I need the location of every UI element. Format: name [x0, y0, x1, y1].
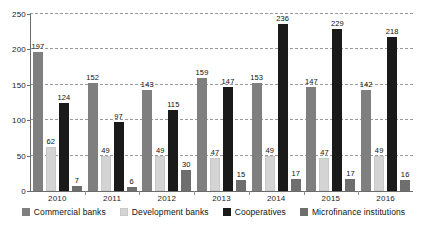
bar-chart: 1976212471524997614349115301594714715153… — [0, 0, 427, 230]
x-axis-group-separator — [194, 191, 195, 195]
x-axis-tick-label: 2012 — [157, 194, 176, 203]
legend-label: Commercial banks — [34, 207, 106, 217]
x-axis-tick-label: 2015 — [322, 194, 341, 203]
legend-label: Development banks — [132, 207, 209, 217]
legend-item[interactable]: Commercial banks — [22, 207, 106, 217]
legend-item[interactable]: Development banks — [120, 207, 209, 217]
x-axis-tick-label: 2014 — [267, 194, 286, 203]
legend-item[interactable]: Microfinance institutions — [300, 207, 405, 217]
x-axis-tick-label: 2013 — [212, 194, 231, 203]
x-axis-group-separator — [358, 191, 359, 195]
legend: Commercial banksDevelopment banksCoopera… — [0, 207, 427, 217]
x-axis-tick-label: 2016 — [376, 194, 395, 203]
legend-label: Cooperatives — [235, 207, 286, 217]
legend-item[interactable]: Cooperatives — [223, 207, 286, 217]
legend-label: Microfinance institutions — [312, 207, 405, 217]
legend-swatch-icon — [22, 208, 30, 216]
legend-swatch-icon — [120, 208, 128, 216]
x-axis-tick-label: 2010 — [48, 194, 67, 203]
x-axis-tick-labels: 2010201120122013201420152016 — [30, 0, 413, 230]
x-axis-group-separator — [304, 191, 305, 195]
x-axis-group-separator — [85, 191, 86, 195]
x-axis-group-separator — [249, 191, 250, 195]
x-axis-tick-label: 2011 — [103, 194, 121, 203]
x-axis-group-separator — [139, 191, 140, 195]
legend-swatch-icon — [300, 208, 308, 216]
legend-swatch-icon — [223, 208, 231, 216]
